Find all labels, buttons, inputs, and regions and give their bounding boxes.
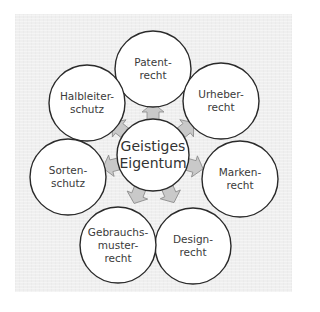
label-line: Design- (173, 233, 213, 246)
label-line: Urheber- (198, 88, 244, 101)
center-label-line-1: Geistiges (119, 138, 186, 155)
node-label-designrecht: Design- recht (173, 233, 213, 259)
label-line: recht (173, 246, 213, 259)
center-label-line-2: Eigentum (119, 155, 186, 172)
label-line: schutz (60, 103, 114, 116)
label-line: schutz (49, 177, 87, 190)
node-label-urheberrecht: Urheber- recht (198, 88, 244, 114)
node-label-gebrauchsmusterrecht: Gebrauchs- muster- recht (88, 226, 148, 265)
label-line: recht (198, 101, 244, 114)
label-line: Halbleiter- (60, 90, 114, 103)
label-line: Patent- (134, 56, 171, 69)
node-label-markenrecht: Marken- recht (219, 166, 261, 192)
label-line: Sorten- (49, 164, 87, 177)
label-line: muster- (88, 239, 148, 252)
node-label-sortenschutz: Sorten- schutz (49, 164, 87, 190)
label-line: Gebrauchs- (88, 226, 148, 239)
label-line: recht (219, 179, 261, 192)
label-line: recht (88, 252, 148, 265)
node-label-halbleiterschutz: Halbleiter- schutz (60, 90, 114, 116)
node-label-patentrecht: Patent- recht (134, 56, 171, 82)
label-line: recht (134, 69, 171, 82)
center-node-label: Geistiges Eigentum (119, 138, 186, 172)
label-line: Marken- (219, 166, 261, 179)
